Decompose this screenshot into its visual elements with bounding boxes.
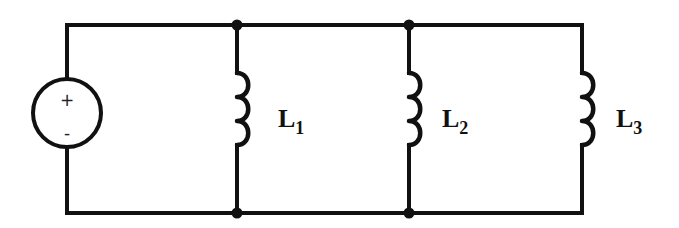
inductor-branch-l3: L3 [582,25,642,213]
junction-dot-bottom-l1 [232,208,243,219]
junction-dot-bottom-l2 [404,208,415,219]
inductor-l2-coil [409,73,420,145]
positive-terminal-sign: + [60,90,74,110]
inductor-l1-label: L1 [278,104,304,138]
junction-dot-top-l1 [232,20,243,31]
inductor-l2-label: L2 [442,104,468,138]
inductor-l3-label: L3 [616,104,642,138]
inductor-branch-l1: L1 [237,25,304,213]
junction-dot-top-l2 [404,20,415,31]
voltage-source: + - [33,79,101,147]
inductor-l3-coil [582,73,593,145]
negative-terminal-sign: - [64,123,70,143]
inductor-branch-l2: L2 [409,25,468,213]
inductor-l1-coil [237,73,248,145]
circuit-diagram: + - L1 L2 L3 [0,0,679,228]
